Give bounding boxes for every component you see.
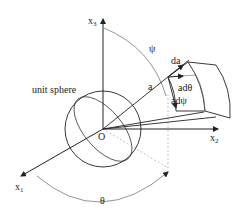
projection-lines: [103, 95, 168, 168]
a-dtheta-label: adθ: [178, 82, 192, 93]
unit-sphere-label: unit sphere: [32, 84, 77, 95]
x1-axis: [21, 129, 103, 176]
psi-label: ψ: [149, 43, 156, 54]
da-label: da: [171, 55, 181, 66]
a-dpsi-label: adψ: [171, 95, 187, 106]
a-label: a: [148, 81, 153, 92]
origin-label: O: [98, 131, 105, 142]
theta-label: θ: [100, 195, 105, 206]
x1-label: x1: [15, 181, 24, 194]
x2-label: x2: [210, 132, 219, 145]
spherical-coordinates-diagram: x3 x2 x1 O unit sphere θ ψ a da adθ adψ: [0, 0, 242, 212]
x3-label: x3: [88, 15, 97, 28]
